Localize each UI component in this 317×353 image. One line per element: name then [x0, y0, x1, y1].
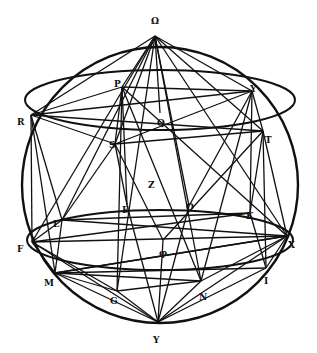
edge-T-phi [163, 131, 263, 240]
point-label-T: T [265, 135, 272, 145]
edge-Y-N [201, 91, 252, 281]
edge-Y-T [252, 91, 263, 131]
point-label-R: R [17, 117, 25, 127]
point-label-O: O [186, 202, 194, 212]
edge-top-Y [155, 36, 252, 91]
edge-P-Y [122, 87, 252, 91]
edge-E-bottom [127, 205, 158, 322]
point-label-G: G [110, 296, 118, 306]
edge-S-L [62, 144, 115, 220]
point-label-F: F [17, 244, 24, 254]
diagram-lines [22, 36, 298, 323]
point-label-K: K [246, 211, 255, 221]
edge-Y-K [250, 91, 252, 213]
point-labels: ΩPYRQSTZEOKLFXφMIGNΥ [17, 16, 295, 345]
edge-R-L [31, 115, 62, 220]
edge-T-X [263, 131, 287, 236]
point-label-phi: φ [159, 248, 167, 258]
point-label-I: I [264, 276, 268, 286]
point-label-N: N [199, 292, 207, 302]
point-label-bottom: Υ [152, 335, 160, 345]
edge-Y-O [189, 91, 252, 206]
point-label-top: Ω [151, 16, 159, 26]
edge-R-T [31, 115, 263, 131]
edge-M-bottom [55, 273, 158, 322]
edge-S-T [115, 131, 263, 144]
edge-top-N [155, 36, 201, 281]
point-label-L: L [53, 219, 60, 229]
edge-N-bottom [158, 281, 201, 322]
point-label-X: X [288, 240, 295, 250]
edge-R-P [31, 87, 122, 115]
edge-G-N [117, 281, 201, 291]
sphere-diagram: ΩPYRQSTZEOKLFXφMIGNΥ [0, 0, 317, 353]
point-label-Q: Q [157, 118, 165, 128]
point-label-P: P [114, 79, 121, 89]
point-label-Z: Z [148, 180, 155, 190]
point-label-M: M [44, 278, 54, 288]
point-label-Y: Y [249, 84, 257, 94]
point-label-S: S [109, 140, 116, 150]
point-label-E: E [122, 205, 129, 215]
